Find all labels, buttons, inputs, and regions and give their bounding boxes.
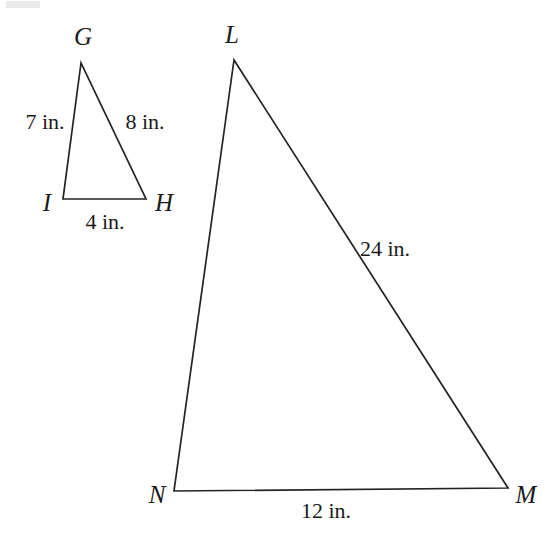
side-label-NM: 12 in. (301, 498, 351, 523)
side-label-IH: 4 in. (85, 209, 124, 234)
vertex-label-G: G (74, 23, 92, 50)
side-label-GH: 8 in. (125, 109, 164, 134)
vertex-label-M: M (515, 481, 538, 508)
vertex-label-H: H (154, 189, 175, 216)
large-triangle-group: L N M 24 in. 12 in. (148, 21, 538, 523)
side-label-GI: 7 in. (25, 109, 64, 134)
geometry-figure: G I H 7 in. 8 in. 4 in. L N M 24 in. 12 … (0, 0, 548, 536)
vertex-label-N: N (148, 481, 167, 508)
vertex-label-L: L (224, 21, 239, 48)
large-triangle-outline (174, 60, 508, 491)
small-triangle-group: G I H 7 in. 8 in. 4 in. (25, 23, 175, 234)
side-label-LM: 24 in. (360, 236, 410, 261)
vertex-label-I: I (42, 189, 53, 216)
